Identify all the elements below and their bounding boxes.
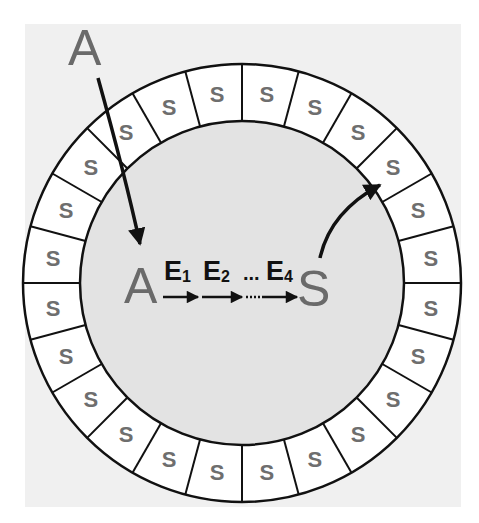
ring-segment-label: S [59, 198, 74, 223]
outside-substrate-label: A [68, 20, 102, 76]
pathway-start-label: A [124, 258, 158, 314]
ring-segment-label: S [119, 422, 134, 447]
ring-segment-label: S [59, 344, 74, 369]
pathway-ring-diagram: SSSSSSSSSSSSSSSSSSSSSSSS A A S E1 E2 ...… [0, 0, 479, 523]
ring-segment-label: S [411, 198, 426, 223]
ring-segment-label: S [46, 296, 61, 321]
ring-segment-label: S [210, 460, 225, 485]
ring-segment-label: S [210, 82, 225, 107]
ring-segment-label: S [386, 155, 401, 180]
ring-segment-label: S [260, 82, 275, 107]
ring-segment-label: S [424, 246, 439, 271]
ring-segment-label: S [308, 447, 323, 472]
ring-segment-label: S [46, 246, 61, 271]
ring-segment-label: S [84, 155, 99, 180]
enzyme-ellipsis: ... [243, 262, 260, 284]
ring-segment-label: S [411, 344, 426, 369]
ring-segment-label: S [84, 387, 99, 412]
ring-segment-label: S [308, 95, 323, 120]
ring-segment-label: S [119, 120, 134, 145]
ring-segment-label: S [424, 296, 439, 321]
ring-segment-label: S [162, 95, 177, 120]
ring-segment-label: S [351, 422, 366, 447]
ring-segment-label: S [351, 120, 366, 145]
ring-segment-label: S [162, 447, 177, 472]
ring-segment-label: S [386, 387, 401, 412]
pathway-end-label: S [297, 261, 330, 317]
ring-segment-label: S [260, 460, 275, 485]
